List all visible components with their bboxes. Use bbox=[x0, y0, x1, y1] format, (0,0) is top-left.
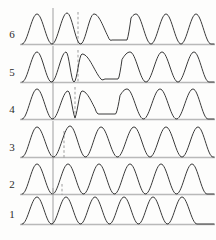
row-label-2: 2 bbox=[9, 178, 15, 190]
trace-row-6 bbox=[20, 8, 215, 45]
row-label-3: 3 bbox=[9, 141, 15, 153]
row-label-4: 4 bbox=[9, 103, 15, 115]
row-labels-group: 654321 bbox=[9, 28, 15, 220]
waveform-svg: 654321 bbox=[0, 0, 216, 240]
row-label-6: 6 bbox=[9, 28, 15, 40]
trace-row-1 bbox=[20, 188, 215, 225]
trace-path-row-1 bbox=[22, 197, 214, 224]
trace-row-2 bbox=[20, 158, 215, 195]
row-label-5: 5 bbox=[9, 66, 15, 78]
trace-path-row-4 bbox=[22, 89, 214, 119]
trace-row-3 bbox=[20, 121, 215, 158]
trace-row-4 bbox=[20, 83, 215, 120]
row-label-1: 1 bbox=[9, 208, 15, 220]
trace-row-5 bbox=[20, 46, 215, 83]
trace-path-row-3 bbox=[22, 126, 214, 157]
trace-path-row-5 bbox=[22, 52, 214, 82]
trace-path-row-6 bbox=[22, 13, 214, 44]
trace-rows-group bbox=[20, 8, 215, 225]
waveform-figure: 654321 bbox=[0, 0, 216, 240]
trace-path-row-2 bbox=[22, 164, 214, 194]
